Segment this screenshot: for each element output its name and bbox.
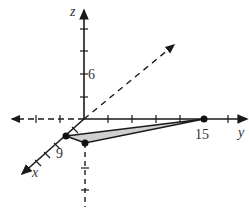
z-axis (80, 10, 88, 119)
diagram-canvas: z y x 6 9 15 (0, 0, 249, 208)
y-axis-label: y (236, 125, 245, 140)
point-below (82, 140, 89, 147)
negative-z-axis (81, 143, 89, 207)
z-tick-label-6: 6 (88, 67, 95, 82)
y-tick-label-15: 15 (195, 127, 209, 142)
y-axis (84, 115, 247, 123)
triangle (66, 119, 204, 143)
z-axis-label: z (69, 4, 76, 19)
point-x9 (63, 133, 70, 140)
negative-y-axis (12, 115, 84, 123)
x-axis-label: x (31, 165, 39, 180)
x-tick-label-9: 9 (56, 146, 63, 161)
point-y15 (201, 116, 208, 123)
negative-x-axis (84, 45, 174, 119)
